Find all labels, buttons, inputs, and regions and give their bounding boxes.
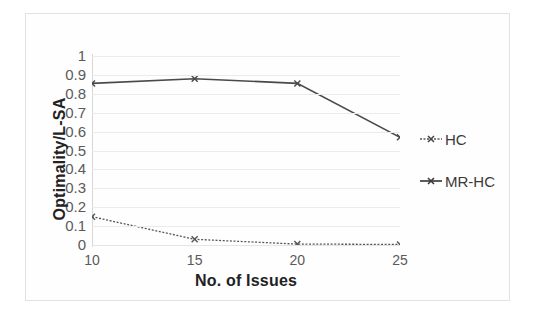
legend-marker-icon-mr-hc bbox=[420, 176, 442, 186]
data-point-marker bbox=[192, 236, 198, 242]
chart-figure: 10.90.80.70.60.50.40.30.20.10 10152025 N… bbox=[0, 0, 533, 313]
y-axis-title: Optimality/L-SA bbox=[51, 59, 69, 259]
x-tick-label: 15 bbox=[172, 252, 218, 268]
gridline bbox=[92, 188, 400, 189]
chart-legend: HC MR-HC bbox=[420, 128, 510, 212]
gridline bbox=[92, 132, 400, 133]
gridline bbox=[92, 94, 400, 95]
series-line-mr-hc bbox=[92, 79, 400, 138]
gridline bbox=[92, 75, 400, 76]
legend-marker-icon-hc bbox=[420, 134, 442, 144]
legend-item-hc[interactable]: HC bbox=[420, 128, 510, 150]
gridline bbox=[92, 207, 400, 208]
legend-item-mr-hc[interactable]: MR-HC bbox=[420, 170, 510, 192]
x-tick-label: 20 bbox=[274, 252, 320, 268]
x-axis-title: No. of Issues bbox=[92, 272, 400, 290]
gridline bbox=[92, 151, 400, 152]
gridline bbox=[92, 245, 400, 246]
legend-label-hc: HC bbox=[445, 131, 467, 148]
plot-area bbox=[92, 56, 400, 245]
series-line-hc bbox=[92, 217, 400, 245]
gridline bbox=[92, 113, 400, 114]
x-tick-label: 25 bbox=[377, 252, 423, 268]
gridline bbox=[92, 56, 400, 57]
gridline bbox=[92, 169, 400, 170]
legend-label-mr-hc: MR-HC bbox=[445, 173, 495, 190]
gridline bbox=[92, 226, 400, 227]
x-tick-label: 10 bbox=[69, 252, 115, 268]
